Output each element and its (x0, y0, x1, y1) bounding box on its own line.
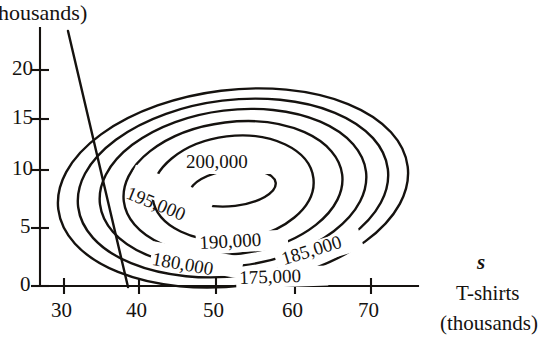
y-tick-label-15: 15 (12, 107, 33, 128)
x-tick-label-50: 50 (203, 300, 224, 321)
x-tick-label-30: 30 (51, 300, 72, 321)
x-axis-name-label: T-shirts (456, 283, 519, 304)
x-tick-label-60: 60 (282, 300, 303, 321)
y-tick-label-0: 0 (20, 274, 31, 295)
contour-label-190000: 190,000 (199, 230, 262, 252)
x-tick-label-70: 70 (358, 300, 379, 321)
x-axis-variable-label: s (477, 252, 485, 273)
y-axis-units-label: housands) (0, 2, 87, 24)
y-tick-label-20: 20 (12, 58, 33, 79)
constraint-line (68, 31, 128, 287)
contour-label-200000: 200,000 (186, 152, 248, 171)
contour-label-175000: 175,000 (239, 266, 301, 287)
x-axis-units-label: (thousands) (440, 313, 538, 334)
x-tick-label-40: 40 (126, 300, 147, 321)
contour-plot-figure: housands) 20 15 10 5 0 30 40 50 60 70 20… (0, 0, 543, 342)
y-tick-label-10: 10 (12, 158, 33, 179)
y-tick-label-5: 5 (20, 216, 31, 237)
